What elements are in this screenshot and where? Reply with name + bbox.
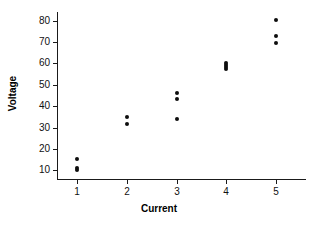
x-tick-mark [276,180,277,184]
x-axis-title: Current [0,203,318,214]
x-tick-label: 1 [67,187,87,197]
x-tick-label: 5 [266,187,286,197]
data-point [224,67,228,71]
y-tick-mark [53,42,57,43]
data-point [274,34,278,38]
data-point [274,41,278,45]
y-tick-mark [53,21,57,22]
x-tick-label: 3 [167,187,187,197]
x-tick-mark [127,180,128,184]
x-axis-line [57,179,306,180]
y-axis-line [57,12,58,180]
data-point [125,115,129,119]
y-tick-label: 30 [18,123,50,133]
data-point [125,122,129,126]
y-axis-title: Voltage [7,64,18,124]
scatter-plot-figure: 1020304050607080 12345 Current Voltage [0,0,318,225]
y-tick-label: 10 [18,165,50,175]
data-point [75,168,79,172]
y-tick-mark [53,106,57,107]
data-point [75,157,79,161]
x-tick-mark [77,180,78,184]
x-tick-mark [226,180,227,184]
data-point [175,91,179,95]
y-tick-label: 60 [18,58,50,68]
x-tick-mark [177,180,178,184]
y-tick-label: 20 [18,144,50,154]
data-point [274,18,278,22]
y-tick-mark [53,85,57,86]
y-tick-mark [53,149,57,150]
y-tick-label: 80 [18,16,50,26]
y-tick-mark [53,128,57,129]
data-point [175,97,179,101]
data-point [175,117,179,121]
y-tick-label: 40 [18,101,50,111]
y-tick-label: 70 [18,37,50,47]
y-tick-mark [53,170,57,171]
y-tick-mark [53,63,57,64]
x-tick-label: 4 [216,187,236,197]
y-tick-label: 50 [18,80,50,90]
x-tick-label: 2 [117,187,137,197]
